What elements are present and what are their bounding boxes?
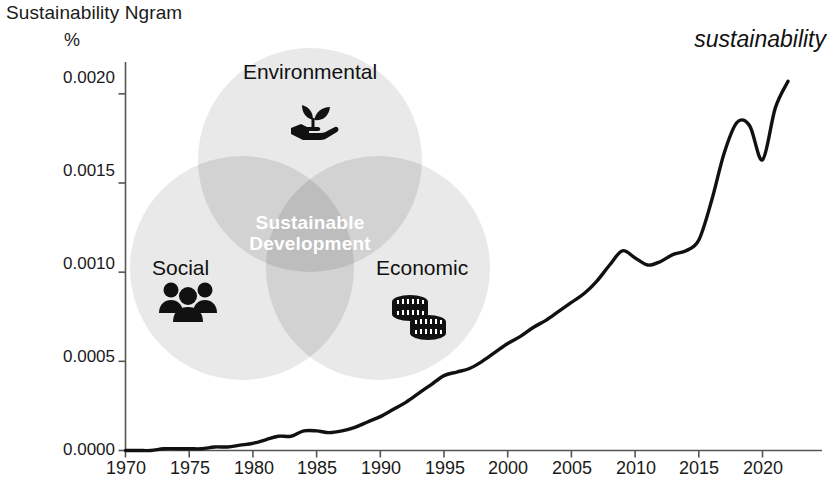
sustainability-ngram-figure: Sustainability Ngram % sustainability 0.… [0, 0, 830, 490]
plot-area [0, 0, 830, 490]
x-axis-ticks [126, 451, 763, 458]
sustainability-line [126, 81, 789, 450]
y-axis-ticks [119, 94, 126, 451]
